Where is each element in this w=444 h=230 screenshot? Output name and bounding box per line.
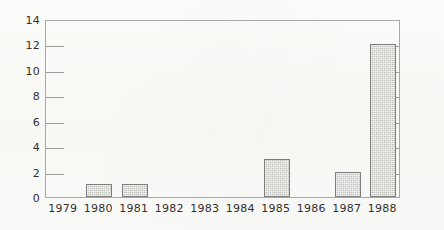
x-axis-tick-label: 1982 [155,202,184,215]
x-axis-tick-label: 1985 [261,202,290,215]
bar [335,172,361,197]
x-axis-tick-label: 1984 [226,202,255,215]
x-axis-tick-label: 1983 [190,202,219,215]
y-axis-tick-mark-left [46,123,64,124]
y-axis-tick-label: 2 [10,166,40,179]
x-axis-tick-label: 1980 [84,202,113,215]
y-axis-tick-mark-left [46,174,64,175]
y-axis-tick-label: 10 [10,64,40,77]
x-axis-tick-label: 1988 [368,202,397,215]
bar [264,159,290,197]
y-axis-tick-label: 8 [10,90,40,103]
y-axis-tick-label: 4 [10,141,40,154]
plot-area [45,20,400,198]
y-axis-tick-label: 14 [10,14,40,27]
bar [86,184,112,197]
y-axis-tick-mark-left [46,46,64,47]
y-axis-tick-label: 6 [10,115,40,128]
y-axis-tick-label: 0 [10,192,40,205]
bar-chart-figure: 02468101214 1979198019811982198319841985… [0,0,444,230]
bar [370,44,396,197]
y-axis-tick-mark-left [46,97,64,98]
y-axis-tick-mark-left [46,148,64,149]
y-axis-tick-mark-left [46,72,64,73]
bar [122,184,148,197]
x-axis-tick-label: 1987 [332,202,361,215]
x-axis-tick-label: 1979 [48,202,77,215]
x-axis-tick-label: 1981 [119,202,148,215]
y-axis-tick-label: 12 [10,39,40,52]
x-axis-tick-label: 1986 [297,202,326,215]
